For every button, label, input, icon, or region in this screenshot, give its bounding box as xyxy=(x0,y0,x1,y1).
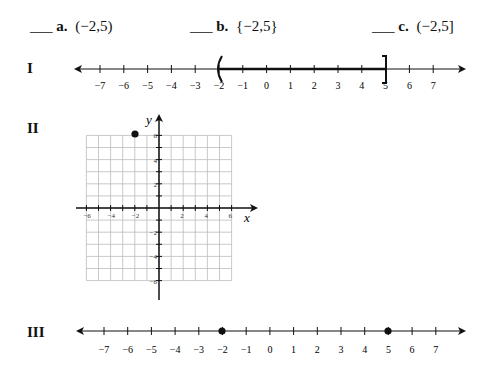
svg-text:−1: −1 xyxy=(237,80,248,91)
svg-text:1: 1 xyxy=(291,344,296,355)
option-expression: (−2,5] xyxy=(416,18,453,34)
svg-text:3: 3 xyxy=(339,344,344,355)
svg-text:4: 4 xyxy=(154,157,158,165)
svg-text:5: 5 xyxy=(386,344,391,355)
svg-text:2: 2 xyxy=(154,181,158,189)
svg-text:−3: −3 xyxy=(190,80,201,91)
svg-text:4: 4 xyxy=(359,80,364,91)
svg-text:2: 2 xyxy=(180,212,184,220)
option-expression: {−2,5} xyxy=(236,18,278,34)
svg-text:0: 0 xyxy=(267,344,272,355)
svg-text:−7: −7 xyxy=(99,344,110,355)
svg-text:−2: −2 xyxy=(214,80,225,91)
figure-label-ii: II xyxy=(27,120,39,137)
svg-text:3: 3 xyxy=(336,80,341,91)
svg-text:2: 2 xyxy=(315,344,320,355)
svg-text:6: 6 xyxy=(410,344,415,355)
svg-text:−7: −7 xyxy=(95,80,106,91)
svg-text:2: 2 xyxy=(312,80,317,91)
svg-text:1: 1 xyxy=(288,80,293,91)
number-line-iii: −7−6−5−4−3−2−101234567 xyxy=(0,320,494,365)
svg-text:−6: −6 xyxy=(83,212,91,220)
answer-blank[interactable]: ___ xyxy=(190,18,213,34)
svg-text:0: 0 xyxy=(264,80,269,91)
svg-text:−3: −3 xyxy=(193,344,204,355)
option-expression: (−2,5) xyxy=(75,18,112,34)
coordinate-grid: −6−4−2246642−2−4−6 x y xyxy=(70,110,260,310)
svg-text:−6: −6 xyxy=(122,344,133,355)
option-letter: c. xyxy=(398,18,408,34)
svg-text:−4: −4 xyxy=(150,253,158,261)
y-axis-label: y xyxy=(144,112,152,127)
point-5 xyxy=(384,327,391,334)
svg-text:−2: −2 xyxy=(217,344,228,355)
svg-text:4: 4 xyxy=(204,212,208,220)
svg-text:6: 6 xyxy=(229,212,233,220)
svg-text:4: 4 xyxy=(362,344,367,355)
svg-text:5: 5 xyxy=(383,80,388,91)
svg-text:−2: −2 xyxy=(132,212,140,220)
option-b: ___ b. {−2,5} xyxy=(190,18,278,35)
option-letter: b. xyxy=(216,18,228,34)
option-letter: a. xyxy=(56,18,67,34)
svg-text:−5: −5 xyxy=(142,80,153,91)
x-axis-label: x xyxy=(243,210,250,225)
answer-blank[interactable]: ___ xyxy=(372,18,395,34)
svg-text:−4: −4 xyxy=(166,80,177,91)
svg-text:6: 6 xyxy=(154,132,158,140)
svg-text:−5: −5 xyxy=(146,344,157,355)
svg-text:−6: −6 xyxy=(118,80,129,91)
answer-blank[interactable]: ___ xyxy=(30,18,53,34)
svg-text:−4: −4 xyxy=(108,212,116,220)
svg-text:−6: −6 xyxy=(150,278,158,286)
svg-text:7: 7 xyxy=(433,344,438,355)
number-line-i: −7−6−5−4−3−2−101234567 xyxy=(0,50,494,95)
svg-text:7: 7 xyxy=(431,80,436,91)
svg-text:−2: −2 xyxy=(150,229,158,237)
svg-text:6: 6 xyxy=(407,80,412,91)
option-a: ___ a. (−2,5) xyxy=(30,18,112,35)
plotted-point xyxy=(131,130,138,137)
option-c: ___ c. (−2,5] xyxy=(372,18,454,35)
svg-text:−1: −1 xyxy=(241,344,252,355)
point-neg2 xyxy=(218,327,225,334)
svg-text:−4: −4 xyxy=(170,344,181,355)
